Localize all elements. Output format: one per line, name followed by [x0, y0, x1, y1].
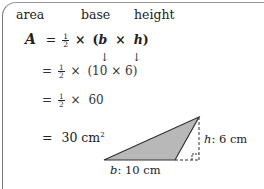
- height-label: h: 6 cm: [204, 132, 247, 146]
- right-angle-marker: [192, 154, 199, 160]
- triangle-diagram: [0, 0, 264, 189]
- base-label: b: 10 cm: [110, 163, 161, 177]
- triangle-shape: [104, 117, 199, 160]
